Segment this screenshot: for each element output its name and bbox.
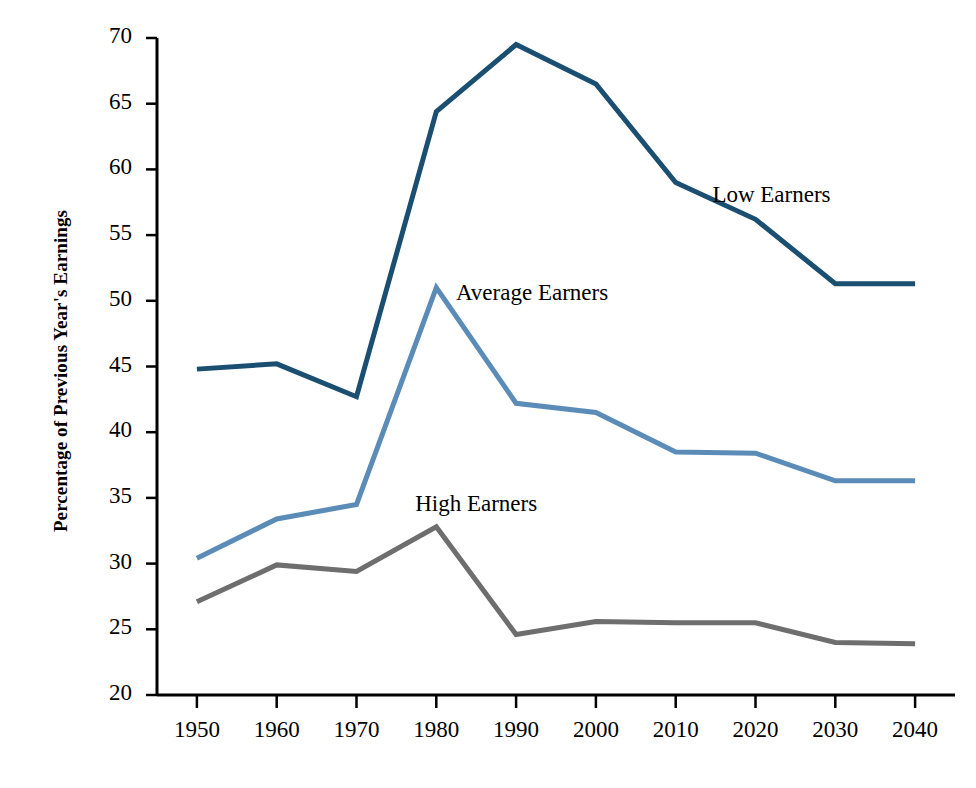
series-label-average-earners: Average Earners [456,280,608,306]
x-axis-tick-label: 2040 [865,717,965,743]
y-axis-tick-label: 50 [62,286,132,312]
x-axis-ticks [197,695,915,708]
y-axis-tick-label: 55 [62,220,132,246]
y-axis-tick-label: 60 [62,154,132,180]
series-label-high-earners: High Earners [415,491,537,517]
y-axis-ticks [146,38,157,695]
y-axis-tick-label: 20 [62,680,132,706]
series-line-average-earners [197,288,915,559]
line-chart: Percentage of Previous Year's Earnings 2… [0,0,976,788]
y-axis-tick-label: 25 [62,614,132,640]
series-label-low-earners: Low Earners [712,182,830,208]
chart-page: Percentage of Previous Year's Earnings 2… [0,0,976,788]
y-axis-tick-label: 35 [62,483,132,509]
series-line-low-earners [197,45,915,397]
y-axis-tick-label: 65 [62,89,132,115]
plot-canvas [0,0,976,788]
y-axis-tick-label: 40 [62,417,132,443]
y-axis-tick-label: 30 [62,549,132,575]
series-line-high-earners [197,527,915,644]
series-lines [197,45,915,644]
y-axis-tick-label: 70 [62,23,132,49]
y-axis-tick-label: 45 [62,352,132,378]
